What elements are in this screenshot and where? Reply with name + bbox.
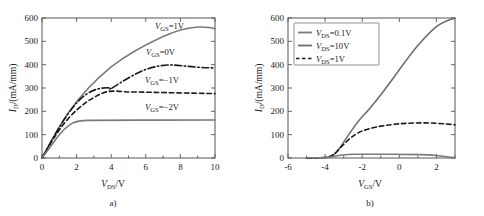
panel-b-xtick-minus2: -2 <box>358 162 366 172</box>
panel-a-ytick-0: 0 <box>34 153 39 163</box>
panel-a-ytick-200: 200 <box>25 106 39 116</box>
panel-a-xtick-8: 8 <box>178 162 183 172</box>
panel-a-ytick-300: 300 <box>25 83 39 93</box>
panel-a-xtick-2: 2 <box>74 162 79 172</box>
panel-b-xlabel-sub: GS <box>364 183 373 190</box>
panel-b-caption: b) <box>366 198 374 208</box>
panel-a-x-axis-title: VDS/V <box>101 179 125 190</box>
panel-a-caption: a) <box>110 198 117 208</box>
panel-a-plot-frame <box>42 18 215 158</box>
curve-vgs-minus1v <box>42 91 215 158</box>
panel-a-x-axis: 0 2 4 6 8 10 <box>40 18 220 172</box>
panel-a-xlabel-unit: /V <box>115 179 125 189</box>
svg-text:ID/(mA/mm): ID/(mA/mm) <box>254 64 265 114</box>
panel-b-x-axis-title: VGS/V <box>358 179 382 190</box>
panel-b-xtick-2: 2 <box>434 162 439 172</box>
svg-text:VDS/V: VDS/V <box>101 179 125 190</box>
panel-a-xtick-4: 4 <box>109 162 114 172</box>
panel-b-xtick-0: 0 <box>397 162 402 172</box>
panel-b-ytick-400: 400 <box>271 60 285 70</box>
panel-b-xlabel-unit: /V <box>372 179 382 189</box>
panel-b-ylabel-unit: /(mA/mm) <box>254 64 265 105</box>
panel-a-ytick-400: 400 <box>25 60 39 70</box>
panel-a-xlabel-sub: DS <box>107 183 116 190</box>
panel-a-xtick-6: 6 <box>144 162 149 172</box>
panel-a-y-axis-title: ID/(mA/mm) <box>8 64 19 114</box>
panel-b-xtick-minus6: -6 <box>284 162 292 172</box>
panel-b-y-axis-title: ID/(mA/mm) <box>254 64 265 114</box>
curve-vgs-0v <box>42 65 215 158</box>
curve-label-vgs-0v: VGS=0V <box>146 47 176 58</box>
legend-label-vds-10v: VDS=10V <box>316 41 350 52</box>
curve-label-vgs-minus2v: VGS=−2V <box>145 102 180 113</box>
curve-vds-1v <box>307 123 455 158</box>
panel-a-y-axis: 0 100 200 300 400 500 600 <box>25 13 216 163</box>
curve-label-vgs-1v: VGS=1V <box>155 21 185 32</box>
svg-text:VGS/V: VGS/V <box>358 179 382 190</box>
panel-a-ylabel-unit: /(mA/mm) <box>8 64 19 105</box>
panel-a-output-characteristics: 0 100 200 300 400 500 600 <box>0 0 242 216</box>
legend-label-vds-1v: VDS=1V <box>316 54 346 65</box>
panel-a-xtick-0: 0 <box>40 162 45 172</box>
panel-b-ytick-600: 600 <box>271 13 285 23</box>
panel-b-ytick-200: 200 <box>271 106 285 116</box>
panel-a-ytick-500: 500 <box>25 36 39 46</box>
figure-container: 0 100 200 300 400 500 600 <box>0 0 484 216</box>
svg-text:ID/(mA/mm): ID/(mA/mm) <box>8 64 19 114</box>
curve-label-vgs-minus1v: VGS=−1V <box>145 75 180 86</box>
panel-b-xtick-minus4: -4 <box>321 162 329 172</box>
panel-a-ytick-600: 600 <box>25 13 39 23</box>
panel-b-legend: VDS=0.1V VDS=10V VDS=1V <box>294 23 379 65</box>
panel-b-ytick-300: 300 <box>271 83 285 93</box>
panel-b-ytick-500: 500 <box>271 36 285 46</box>
panel-a-ytick-100: 100 <box>25 130 39 140</box>
panel-b-transfer-characteristics: 0 100 200 300 400 500 600 <box>242 0 484 216</box>
panel-a-xtick-10: 10 <box>211 162 221 172</box>
curve-vgs-minus2v <box>42 120 215 158</box>
panel-b-ytick-100: 100 <box>271 130 285 140</box>
